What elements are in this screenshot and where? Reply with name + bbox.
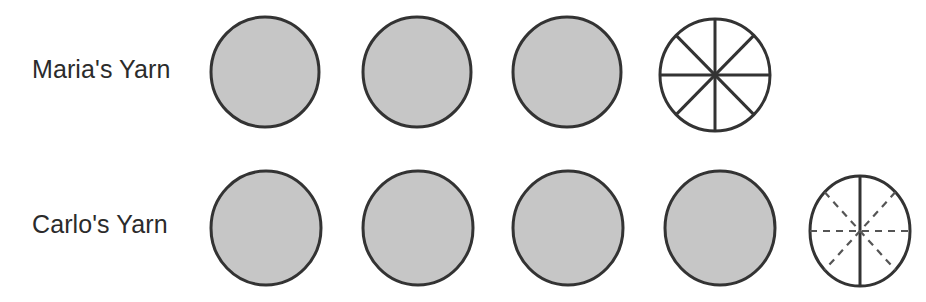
row-label-carlo: Carlo's Yarn bbox=[32, 210, 168, 239]
carlo-whole-circle-2 bbox=[360, 168, 476, 288]
maria-whole-circle-1 bbox=[208, 14, 322, 130]
maria-whole-circle-3 bbox=[510, 14, 624, 130]
carlo-whole-circle-4 bbox=[662, 168, 778, 288]
fraction-circles-figure: Maria's Yarn Carlo's Yarn bbox=[0, 0, 926, 302]
carlo-partitioned-circle bbox=[805, 172, 915, 290]
carlo-whole-circle-1 bbox=[208, 168, 324, 288]
row-label-maria: Maria's Yarn bbox=[32, 55, 170, 84]
maria-partitioned-circle bbox=[655, 14, 775, 136]
maria-whole-circle-2 bbox=[360, 14, 474, 130]
carlo-whole-circle-3 bbox=[510, 168, 626, 288]
